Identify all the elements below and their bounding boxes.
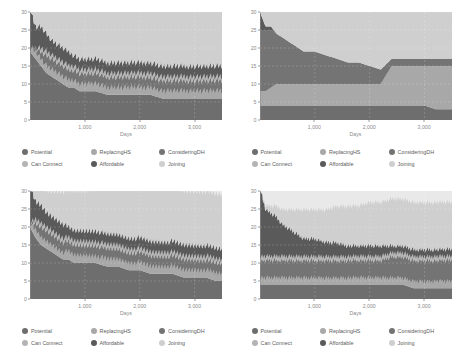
legend-item-replacinghs[interactable]: ReplacingHS <box>91 325 158 336</box>
legend-item-consideringdh[interactable]: ConsideringDH <box>159 146 226 157</box>
legend-item-can-connect[interactable]: Can Connect <box>252 158 319 169</box>
legend-item-replacinghs[interactable]: ReplacingHS <box>320 325 387 336</box>
legend-swatch-icon <box>91 161 97 167</box>
legend-item-potential[interactable]: Potential <box>22 146 89 157</box>
area-chart-svg <box>30 191 222 299</box>
legend-label: Potential <box>261 328 282 334</box>
legend-label: ConsideringDH <box>168 149 205 155</box>
legend-swatch-icon <box>389 340 395 346</box>
y-tick-mark <box>28 12 30 13</box>
y-tick-label: 25 <box>21 27 27 33</box>
legend-item-can-connect[interactable]: Can Connect <box>252 337 319 348</box>
x-tick-mark <box>369 120 370 122</box>
legend-item-joining[interactable]: Joining <box>389 337 456 348</box>
y-tick-label: 0 <box>254 117 257 123</box>
y-tick-label: 10 <box>251 260 257 266</box>
legend-item-affordable[interactable]: Affordable <box>320 337 387 348</box>
legend-item-consideringdh[interactable]: ConsideringDH <box>389 325 456 336</box>
x-tick-label: 2,000 <box>133 303 146 309</box>
y-tick-mark <box>258 83 260 84</box>
y-tick-label: 25 <box>21 206 27 212</box>
y-tick-mark <box>258 120 260 121</box>
legend-swatch-icon <box>91 340 97 346</box>
y-tick-mark <box>258 299 260 300</box>
area-band-potential <box>260 106 452 120</box>
legend-label: Can Connect <box>261 340 292 346</box>
legend-swatch-icon <box>320 340 326 346</box>
legend-swatch-icon <box>252 161 258 167</box>
legend-bottom-right: PotentialReplacingHSConsideringDHCan Con… <box>252 325 456 348</box>
legend-swatch-icon <box>159 149 165 155</box>
x-tick-label: 2,000 <box>363 124 376 130</box>
x-tick-mark <box>314 120 315 122</box>
legend-item-replacinghs[interactable]: ReplacingHS <box>320 146 387 157</box>
area-chart-svg <box>260 191 452 299</box>
legend-item-joining[interactable]: Joining <box>159 337 226 348</box>
legend-swatch-icon <box>22 161 28 167</box>
legend-swatch-icon <box>91 149 97 155</box>
legend-swatch-icon <box>159 161 165 167</box>
y-tick-mark <box>258 208 260 209</box>
legend-item-affordable[interactable]: Affordable <box>91 158 158 169</box>
chart-panel-top-right: Number of agents Days 0510152025301,0002… <box>230 0 459 179</box>
y-tick-label: 30 <box>21 9 27 15</box>
y-tick-label: 30 <box>251 9 257 15</box>
legend-item-joining[interactable]: Joining <box>159 158 226 169</box>
y-tick-label: 0 <box>24 296 27 302</box>
x-axis-label: Days <box>260 310 452 316</box>
y-tick-mark <box>258 66 260 67</box>
y-tick-label: 20 <box>21 45 27 51</box>
legend-label: Potential <box>261 149 282 155</box>
y-tick-label: 30 <box>251 188 257 194</box>
y-tick-mark <box>258 12 260 13</box>
x-tick-mark <box>424 120 425 122</box>
y-tick-label: 5 <box>254 278 257 284</box>
y-tick-mark <box>28 208 30 209</box>
area-chart-svg <box>260 12 452 120</box>
y-tick-mark <box>258 281 260 282</box>
legend-item-potential[interactable]: Potential <box>252 325 319 336</box>
plot-area-top-left: Number of agents Days 0510152025301,0002… <box>30 12 222 120</box>
y-tick-label: 0 <box>24 117 27 123</box>
x-tick-mark <box>84 120 85 122</box>
legend-label: ConsideringDH <box>168 328 205 334</box>
legend-label: Joining <box>398 161 415 167</box>
y-tick-mark <box>258 29 260 30</box>
y-tick-mark <box>258 245 260 246</box>
legend-item-replacinghs[interactable]: ReplacingHS <box>91 146 158 157</box>
legend-swatch-icon <box>159 328 165 334</box>
legend-label: ReplacingHS <box>100 328 131 334</box>
plot-area-bottom-right: Number of agents Days 0510152025301,0002… <box>260 191 452 299</box>
legend-item-affordable[interactable]: Affordable <box>320 158 387 169</box>
x-tick-mark <box>139 120 140 122</box>
x-tick-label: 1,000 <box>78 124 91 130</box>
legend-item-can-connect[interactable]: Can Connect <box>22 158 89 169</box>
legend-item-consideringdh[interactable]: ConsideringDH <box>159 325 226 336</box>
x-tick-mark <box>369 299 370 301</box>
legend-item-can-connect[interactable]: Can Connect <box>22 337 89 348</box>
x-tick-mark <box>194 299 195 301</box>
y-tick-mark <box>28 299 30 300</box>
y-tick-label: 10 <box>21 260 27 266</box>
legend-item-consideringdh[interactable]: ConsideringDH <box>389 146 456 157</box>
y-tick-label: 15 <box>21 63 27 69</box>
y-tick-label: 20 <box>21 224 27 230</box>
x-tick-mark <box>84 299 85 301</box>
y-tick-label: 15 <box>251 63 257 69</box>
legend-swatch-icon <box>252 328 258 334</box>
legend-item-affordable[interactable]: Affordable <box>91 337 158 348</box>
y-tick-mark <box>28 102 30 103</box>
legend-label: Joining <box>398 340 415 346</box>
legend-swatch-icon <box>320 161 326 167</box>
axes-top-left <box>30 12 222 120</box>
legend-swatch-icon <box>389 149 395 155</box>
legend-item-potential[interactable]: Potential <box>22 325 89 336</box>
figure-grid: Number of agents Days 0510152025301,0002… <box>0 0 459 358</box>
y-tick-mark <box>28 262 30 263</box>
legend-swatch-icon <box>252 149 258 155</box>
legend-item-joining[interactable]: Joining <box>389 158 456 169</box>
y-tick-mark <box>258 47 260 48</box>
legend-item-potential[interactable]: Potential <box>252 146 319 157</box>
legend-swatch-icon <box>22 328 28 334</box>
y-tick-label: 15 <box>21 242 27 248</box>
